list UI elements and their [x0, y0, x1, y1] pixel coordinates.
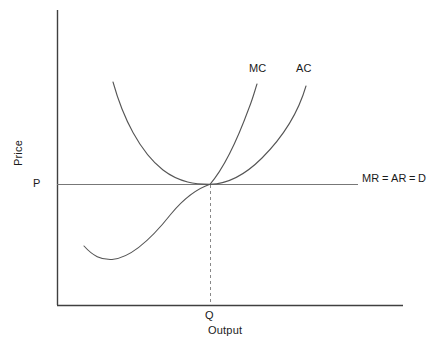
x-axis-title: Output — [208, 324, 242, 336]
curve-label-demand: MR = AR = D — [362, 172, 426, 184]
average-cost-curve — [113, 82, 306, 184]
curve-label-ac: AC — [296, 62, 312, 74]
y-axis-tick-label-p: P — [33, 177, 41, 189]
curve-label-mc: MC — [249, 62, 267, 74]
y-axis-title: Price — [12, 133, 24, 173]
x-axis-tick-label-q: Q — [205, 309, 214, 321]
economics-diagram: MC AC MR = AR = D P Q Output Price — [0, 0, 439, 356]
marginal-cost-curve — [84, 84, 257, 260]
